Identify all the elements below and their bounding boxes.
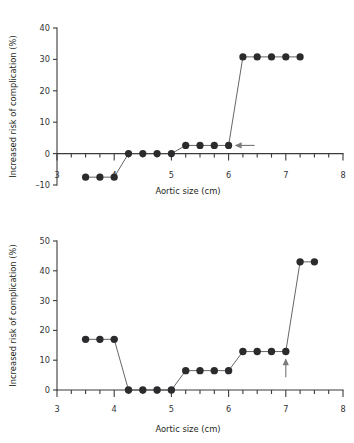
y-tick-label-10: 10 — [40, 355, 50, 365]
data-point — [111, 174, 118, 181]
data-point — [282, 53, 289, 60]
y-axis-title: Increased risk of complication (%) — [8, 244, 18, 387]
y-tick-label-20: 20 — [40, 86, 50, 96]
data-point — [154, 150, 161, 157]
chart-bottom-svg: 01020304050345678Aortic size (cm)Increas… — [0, 213, 354, 443]
chart-panel-top: –10010203040345678Aortic size (cm)Increa… — [0, 0, 354, 213]
data-point — [225, 367, 232, 374]
data-point — [153, 386, 160, 393]
data-point — [139, 150, 146, 157]
x-tick-label-7: 7 — [283, 170, 288, 180]
y-tick-label-50: 50 — [40, 236, 50, 246]
data-point — [139, 386, 146, 393]
data-point — [168, 386, 175, 393]
x-axis-title: Aortic size (cm) — [155, 186, 220, 196]
data-point — [239, 53, 246, 60]
data-point — [96, 174, 103, 181]
x-tick-label-4: 4 — [112, 404, 117, 414]
data-point — [82, 174, 89, 181]
y-tick-label--10: –10 — [35, 180, 50, 190]
data-point — [225, 142, 232, 149]
data-point — [282, 348, 289, 355]
figure-container: –10010203040345678Aortic size (cm)Increa… — [0, 0, 354, 443]
y-tick-label-40: 40 — [40, 23, 50, 33]
chart-panel-bottom: 01020304050345678Aortic size (cm)Increas… — [0, 213, 354, 443]
y-tick-label-30: 30 — [40, 54, 50, 64]
data-point — [311, 258, 318, 265]
x-tick-label-8: 8 — [340, 170, 345, 180]
data-point — [268, 348, 275, 355]
annotation-arrow-head — [283, 358, 289, 365]
y-tick-label-30: 30 — [40, 296, 50, 306]
data-point — [196, 367, 203, 374]
data-point — [296, 258, 303, 265]
x-tick-label-7: 7 — [283, 404, 288, 414]
data-point — [239, 348, 246, 355]
data-point — [125, 386, 132, 393]
x-tick-label-6: 6 — [226, 404, 231, 414]
data-point — [111, 336, 118, 343]
data-point — [125, 150, 132, 157]
data-point — [182, 142, 189, 149]
data-point — [254, 53, 261, 60]
x-tick-label-3: 3 — [54, 404, 59, 414]
data-point — [82, 336, 89, 343]
annotation-arrow-head — [235, 142, 242, 148]
data-point — [196, 142, 203, 149]
series-line — [86, 57, 301, 177]
data-point — [182, 367, 189, 374]
y-tick-label-20: 20 — [40, 325, 50, 335]
y-tick-label-10: 10 — [40, 117, 50, 127]
data-point — [211, 142, 218, 149]
data-point — [254, 348, 261, 355]
data-point — [96, 336, 103, 343]
y-tick-label-40: 40 — [40, 266, 50, 276]
x-axis-title: Aortic size (cm) — [155, 424, 220, 434]
x-tick-label-8: 8 — [340, 404, 345, 414]
y-tick-label-0: 0 — [45, 149, 50, 159]
data-point — [268, 53, 275, 60]
x-tick-label-6: 6 — [226, 170, 231, 180]
y-tick-label-0: 0 — [45, 385, 50, 395]
data-point — [211, 367, 218, 374]
x-tick-label-5: 5 — [169, 170, 174, 180]
x-tick-label-3: 3 — [54, 170, 59, 180]
data-point — [168, 150, 175, 157]
y-axis-title: Increased risk of complication (%) — [8, 35, 18, 178]
x-tick-label-5: 5 — [169, 404, 174, 414]
chart-top-svg: –10010203040345678Aortic size (cm)Increa… — [0, 0, 354, 213]
data-point — [297, 53, 304, 60]
